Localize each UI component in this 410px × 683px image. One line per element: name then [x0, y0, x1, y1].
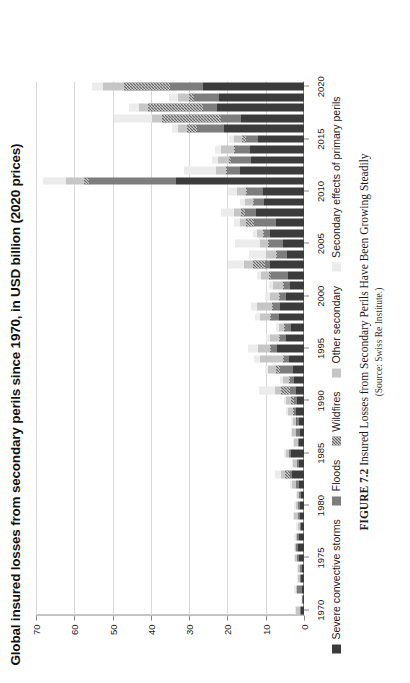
bar-segment [295, 543, 297, 551]
value-axis-tick [189, 615, 190, 620]
bar-segment [266, 250, 276, 258]
bar-segment [293, 417, 296, 425]
category-axis-tick [304, 609, 309, 610]
plot-area: 0102030405060701970197519801985199019952… [36, 81, 304, 615]
bar-segment [283, 281, 284, 289]
bar-segment [277, 250, 287, 258]
bar-segment [297, 585, 302, 593]
category-axis-tick [304, 242, 309, 243]
bar-segment [296, 417, 297, 425]
category-axis-tick-label: 2000 [315, 285, 326, 306]
bar-segment [259, 386, 275, 394]
bar-segment [293, 365, 304, 373]
bar-segment [294, 543, 295, 551]
bar-segment [169, 93, 178, 101]
bar-segment [235, 145, 250, 153]
category-axis-tick-label: 2010 [315, 180, 326, 201]
bar-segment [298, 512, 300, 520]
bar-segment [269, 239, 283, 247]
bar-segment [296, 491, 297, 499]
bar-segment [296, 533, 298, 541]
bar-segment [299, 459, 304, 467]
bar-segment [253, 260, 264, 268]
legend-item: Floods [330, 459, 342, 505]
bar-stack [265, 292, 304, 300]
bar-segment [260, 239, 268, 247]
bar-segment [284, 323, 285, 331]
bar-segment [300, 501, 304, 509]
value-axis-tick-label: 10 [260, 624, 271, 635]
bar-segment [293, 512, 295, 520]
category-axis-tick [304, 504, 309, 505]
bar-stack [265, 365, 304, 373]
category-axis-tick [304, 452, 309, 453]
bar-segment [187, 124, 197, 132]
bar-segment [270, 344, 271, 352]
bar-segment [228, 187, 237, 195]
bar-segment [269, 281, 273, 289]
bar-segment [241, 114, 304, 122]
grid-line [36, 81, 37, 615]
bar-segment [301, 491, 304, 499]
bar-segment [296, 417, 298, 425]
bar-segment [291, 449, 304, 457]
bar-segment [219, 93, 304, 101]
bar-segment [221, 208, 234, 216]
bar-segment [216, 166, 226, 174]
bar-segment [254, 198, 264, 206]
grid-line [151, 81, 152, 615]
bar-segment [294, 397, 297, 405]
bar-stack [249, 250, 304, 258]
bar-segment [300, 564, 302, 572]
bar-segment [152, 114, 162, 122]
bar-segment [276, 219, 304, 227]
bar-segment [298, 543, 305, 551]
bar-stack [292, 459, 304, 467]
bar-stack [234, 219, 304, 227]
bar-segment [296, 522, 297, 530]
bar-stack [254, 355, 304, 363]
bar-segment [264, 229, 270, 237]
bar-segment [295, 606, 296, 614]
value-axis-tick [36, 615, 37, 620]
bar-segment [301, 595, 302, 603]
bar-stack [251, 302, 304, 310]
caption-source: (Source: Swiss Re Institute.) [374, 0, 384, 683]
bar-segment [296, 407, 304, 415]
bar-segment [291, 417, 293, 425]
bar-stack [248, 344, 304, 352]
bar-stack [294, 501, 304, 509]
bar-stack [240, 198, 304, 206]
bar-stack [284, 449, 304, 457]
bar-segment [178, 93, 189, 101]
bar-segment [264, 198, 304, 206]
bar-stack [297, 575, 304, 583]
bar-segment [283, 376, 290, 384]
legend-item: Secondary effects of primary perils [330, 96, 342, 271]
bar-segment [148, 103, 202, 111]
bar-segment [299, 480, 304, 488]
bar-segment [203, 103, 218, 111]
bar-segment [129, 103, 139, 111]
bar-segment [297, 491, 299, 499]
bar-segment [245, 208, 256, 216]
value-axis-tick-label: 50 [107, 624, 118, 635]
legend-item-label: Severe convective storms [330, 519, 342, 639]
bar-segment [260, 313, 270, 321]
legend-item-label: Secondary effects of primary perils [330, 96, 342, 257]
bar-segment [229, 156, 230, 164]
bar-segment [255, 313, 260, 321]
value-axis-tick [304, 615, 305, 620]
figure-frame: Global insured losses from secondary per… [0, 0, 410, 683]
bar-segment [297, 575, 298, 583]
bar-segment [253, 198, 254, 206]
bar-segment [276, 250, 277, 258]
bar-segment [92, 82, 103, 90]
bar-segment [246, 219, 254, 227]
category-axis-line [36, 614, 304, 615]
bar-segment [293, 407, 294, 415]
category-axis-tick-label: 1975 [315, 547, 326, 568]
bar-segment [291, 428, 293, 436]
bar-segment [289, 449, 291, 457]
bar-segment [299, 533, 304, 541]
